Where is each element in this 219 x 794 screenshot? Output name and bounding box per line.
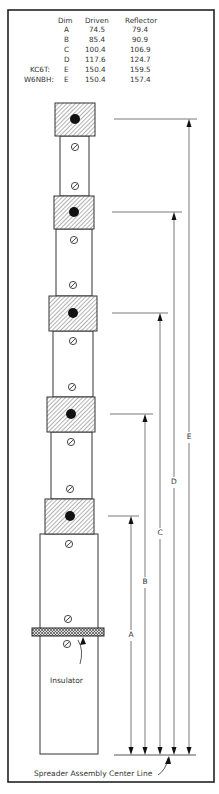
screw-icon bbox=[71, 182, 78, 189]
dimension-e: E bbox=[114, 119, 197, 755]
bolt-icon bbox=[68, 308, 78, 318]
screw-icon bbox=[64, 615, 71, 622]
arrow-up-icon bbox=[158, 313, 163, 321]
insulator-label: Insulator bbox=[50, 676, 84, 685]
centerline-arrow-icon bbox=[165, 756, 171, 764]
screw-icon bbox=[66, 485, 73, 492]
dimension-label: B bbox=[142, 577, 147, 586]
screw-icon bbox=[69, 281, 76, 288]
screw-icon bbox=[69, 337, 76, 344]
centerline-label: Spreader Assembly Center Line bbox=[34, 769, 153, 778]
screw-icon bbox=[63, 640, 70, 647]
screw-icon bbox=[67, 438, 74, 445]
insulator bbox=[32, 628, 104, 636]
arrow-down-icon bbox=[187, 747, 192, 755]
dimension-label: D bbox=[171, 477, 177, 486]
element-diagram: Insulator ABCDE Spreader Assembly Center… bbox=[0, 0, 219, 794]
screw-icon bbox=[70, 236, 77, 243]
arrow-up-icon bbox=[143, 414, 148, 422]
screw-icon bbox=[68, 383, 75, 390]
dimension-label: A bbox=[128, 630, 134, 639]
arrow-down-icon bbox=[172, 747, 177, 755]
dimension-label: C bbox=[157, 528, 162, 537]
screw-icon bbox=[65, 540, 72, 547]
bolt-icon bbox=[65, 511, 75, 521]
bolt-icon bbox=[66, 409, 76, 419]
frame-border bbox=[8, 10, 214, 782]
arrow-up-icon bbox=[187, 119, 192, 127]
screw-icon bbox=[71, 143, 78, 150]
arrow-down-icon bbox=[129, 747, 134, 755]
arrow-down-icon bbox=[158, 747, 163, 755]
dimension-b: B bbox=[110, 414, 153, 755]
bolt-icon bbox=[69, 207, 79, 217]
arrow-up-icon bbox=[172, 212, 177, 220]
arrow-up-icon bbox=[129, 516, 134, 524]
arrow-down-icon bbox=[143, 747, 148, 755]
dimension-d: D bbox=[112, 212, 182, 755]
dimension-lines: ABCDE bbox=[108, 119, 197, 755]
dimension-a: A bbox=[108, 516, 139, 755]
centerline-leader bbox=[158, 758, 168, 775]
dimension-c: C bbox=[112, 313, 168, 755]
dimension-label: E bbox=[187, 432, 192, 441]
bolt-icon bbox=[70, 114, 80, 124]
